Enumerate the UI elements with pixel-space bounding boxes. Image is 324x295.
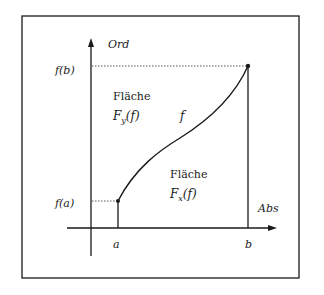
- x-axis-arrow-icon: [268, 225, 277, 231]
- area-upper-formula-arg: (f): [126, 109, 140, 123]
- point-b-icon: [246, 64, 250, 68]
- area-upper-title: Fläche: [113, 90, 150, 103]
- x-axis-label: Abs: [257, 202, 279, 215]
- tick-label-fb: f(b): [54, 64, 75, 77]
- area-upper-formula: Fy(f): [112, 109, 140, 125]
- outer-frame: [22, 16, 299, 278]
- y-axis-arrow-icon: [88, 38, 94, 47]
- point-a-icon: [116, 199, 120, 203]
- curve-label-f: f: [179, 109, 187, 123]
- tick-label-b: b: [245, 238, 252, 251]
- y-axis-label: Ord: [108, 38, 129, 51]
- area-lower-formula: Fx(f): [169, 187, 197, 203]
- area-lower-formula-arg: (f): [183, 187, 197, 201]
- tick-label-a: a: [113, 238, 120, 251]
- area-lower-title: Fläche: [170, 168, 207, 181]
- tick-label-fa: f(a): [54, 197, 74, 210]
- integral-area-diagram: Ord Abs f(b) f(a) a b f Fläche Fy(f) Flä…: [0, 0, 324, 295]
